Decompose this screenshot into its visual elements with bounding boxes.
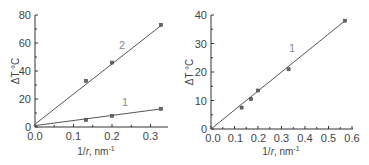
data-point: [111, 114, 114, 117]
left-series-2-markers: [85, 23, 163, 82]
right-xtick-0.4: 0.4: [297, 132, 312, 144]
right-series-1-fit-line: [211, 21, 345, 129]
right-x-axis-title: 1/r, nm-1: [262, 145, 299, 157]
right-xtick-0.1: 0.1: [228, 132, 243, 144]
right-x-tick-labels: 0.0 0.1 0.2 0.3 0.4 0.5 0.6: [205, 132, 359, 144]
right-chart: 0 10 20 30 40 0.0 0.1 0.2 0.3 0.4: [184, 9, 360, 157]
right-xtick-0.2: 0.2: [251, 132, 266, 144]
left-xtick-0.1: 0.1: [66, 130, 81, 142]
data-point: [344, 19, 347, 22]
left-series-2-fit-line: [35, 25, 162, 124]
right-ytick-40: 40: [195, 9, 207, 21]
left-series-1-markers: [85, 107, 163, 121]
left-xtick-0.3: 0.3: [143, 130, 158, 142]
left-series-2-label: 2: [119, 39, 125, 51]
data-point: [240, 106, 243, 109]
left-y-axis-title: ΔT °C: [10, 58, 21, 85]
right-xtick-0.0: 0.0: [205, 132, 220, 144]
right-xtick-0.6: 0.6: [344, 132, 359, 144]
left-series-1-label: 1: [122, 96, 128, 108]
data-point: [257, 89, 260, 92]
right-y-axis-title: ΔT °C: [184, 59, 195, 86]
left-series-1-fit-line: [35, 109, 162, 126]
right-ytick-10: 10: [195, 95, 207, 107]
figure-canvas: 0 20 40 60 80 0.0 0.1 0.2 0.3 1/r, nm-1 …: [0, 0, 369, 165]
left-ytick-60: 60: [19, 37, 31, 49]
data-point: [250, 98, 253, 101]
left-x-axis-title: 1/r, nm-1: [77, 145, 114, 157]
data-point: [160, 23, 163, 26]
left-ytick-20: 20: [19, 93, 31, 105]
left-chart: 0 20 40 60 80 0.0 0.1 0.2 0.3 1/r, nm-1 …: [10, 9, 168, 157]
right-xtick-0.5: 0.5: [321, 132, 336, 144]
data-point: [85, 119, 88, 122]
left-xtick-0.0: 0.0: [27, 130, 42, 142]
data-point: [287, 68, 290, 71]
right-xtick-0.3: 0.3: [274, 132, 289, 144]
data-point: [111, 61, 114, 64]
left-ytick-80: 80: [19, 9, 31, 21]
right-y-tick-labels: 0 10 20 30 40: [195, 9, 207, 135]
right-series-1-label: 1: [289, 42, 295, 54]
right-ytick-30: 30: [195, 38, 207, 50]
data-point: [160, 107, 163, 110]
left-xtick-0.2: 0.2: [104, 130, 119, 142]
right-ytick-20: 20: [195, 66, 207, 78]
left-x-tick-labels: 0.0 0.1 0.2 0.3: [27, 130, 158, 142]
data-point: [85, 79, 88, 82]
